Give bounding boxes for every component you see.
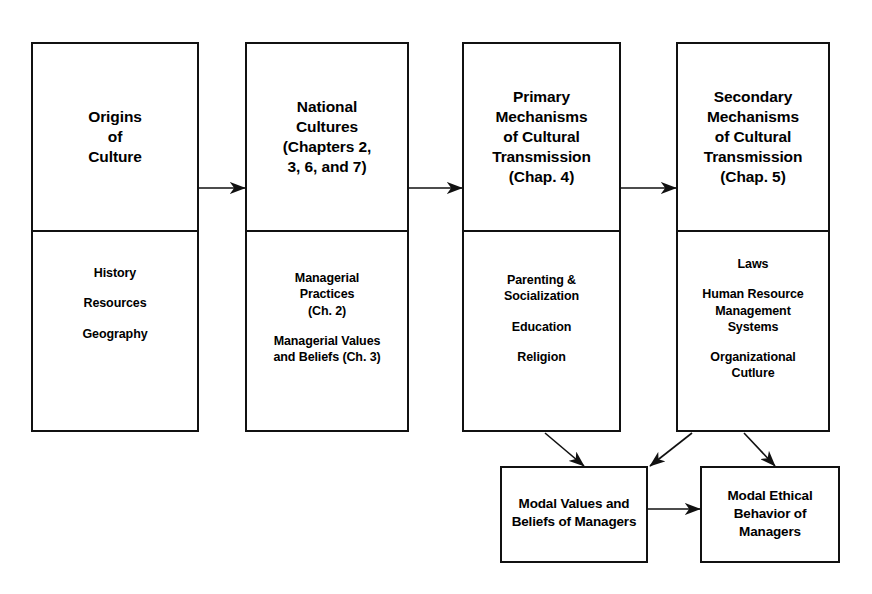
stage-item: Organizational Cutlure [684,349,822,382]
arrow-primary-to-modal-values [545,433,584,466]
flow-diagram: Origins of Culture History Resources Geo… [0,0,872,594]
stage-header-primary-mechanisms: Primary Mechanisms of Cultural Transmiss… [464,44,619,230]
arrow-secondary-to-modal-ethical [744,433,775,466]
stage-box-secondary-mechanisms: Secondary Mechanisms of Cultural Transmi… [676,42,830,432]
stage-item: Education [470,319,613,335]
outcome-box-modal-ethical-behavior: Modal Ethical Behavior of Managers [700,466,840,563]
stage-item: Geography [39,326,191,342]
stage-item: Religion [470,349,613,365]
stage-item: Resources [39,295,191,311]
arrow-secondary-to-modal-values [650,433,692,466]
stage-body-origins-of-culture: History Resources Geography [33,265,197,342]
stage-body-primary-mechanisms: Parenting & Socialization Education Reli… [464,272,619,365]
outcome-label-modal-ethical-behavior: Modal Ethical Behavior of Managers [702,487,838,540]
stage-header-secondary-mechanisms: Secondary Mechanisms of Cultural Transmi… [678,44,828,230]
stage-divider-secondary-mechanisms [678,230,828,232]
stage-divider-primary-mechanisms [464,230,619,232]
stage-header-national-cultures: National Cultures (Chapters 2, 3, 6, and… [247,44,407,230]
stage-divider-origins-of-culture [33,230,197,232]
stage-body-national-cultures: Managerial Practices (Ch. 2) Managerial … [247,270,407,365]
stage-body-secondary-mechanisms: Laws Human Resource Management Systems O… [678,256,828,382]
stage-item: Managerial Values and Beliefs (Ch. 3) [253,333,401,366]
stage-item: History [39,265,191,281]
stage-box-origins-of-culture: Origins of Culture History Resources Geo… [31,42,199,432]
stage-item: Managerial Practices (Ch. 2) [253,270,401,319]
stage-item: Parenting & Socialization [470,272,613,305]
stage-box-primary-mechanisms: Primary Mechanisms of Cultural Transmiss… [462,42,621,432]
stage-divider-national-cultures [247,230,407,232]
outcome-label-modal-values: Modal Values and Beliefs of Managers [502,495,646,531]
outcome-box-modal-values: Modal Values and Beliefs of Managers [500,466,648,563]
stage-header-origins-of-culture: Origins of Culture [33,44,197,230]
stage-box-national-cultures: National Cultures (Chapters 2, 3, 6, and… [245,42,409,432]
stage-item: Laws [684,256,822,272]
stage-item: Human Resource Management Systems [684,286,822,335]
